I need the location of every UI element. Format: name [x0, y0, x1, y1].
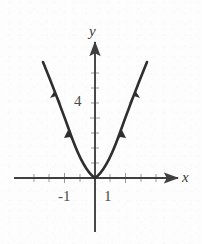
- x-axis-label: x: [182, 170, 189, 185]
- x-tick-label-negative-one: -1: [58, 189, 71, 204]
- plot-canvas: [0, 0, 202, 244]
- parabola-figure: y x 4 -1 1: [0, 0, 202, 244]
- y-axis-label: y: [89, 24, 96, 39]
- x-tick-label-one: 1: [104, 189, 112, 204]
- y-tick-label-4: 4: [74, 94, 82, 109]
